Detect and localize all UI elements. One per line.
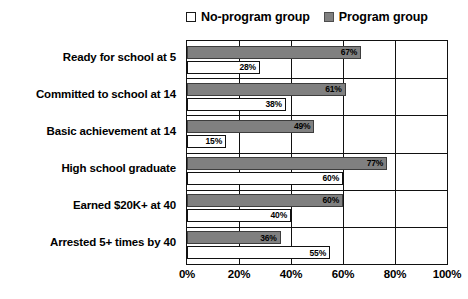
- bar-program-group: 61%: [187, 83, 346, 96]
- y-axis-label-3: Basic achievement at 14: [46, 125, 176, 137]
- x-tick-100: 100%: [433, 268, 462, 280]
- bar-no-program-group: 38%: [187, 98, 286, 111]
- bar-program-group: 36%: [187, 231, 281, 244]
- bar-value-label: 60%: [323, 196, 339, 205]
- bar-value-label: 40%: [271, 211, 287, 220]
- chart-legend: No-program group Program group: [186, 8, 428, 26]
- bar-value-label: 61%: [325, 85, 341, 94]
- bar-no-program-group: 15%: [187, 135, 226, 148]
- bar-value-label: 55%: [310, 249, 326, 258]
- y-axis-label-1: Ready for school at 5: [63, 51, 176, 63]
- y-axis-label-6: Arrested 5+ times by 40: [50, 236, 176, 248]
- bar-value-label: 38%: [265, 100, 281, 109]
- x-tick-0: 0%: [179, 268, 195, 280]
- legend-swatch-no-program-group: [186, 12, 196, 22]
- y-axis-label-5: Earned $20K+ at 40: [73, 199, 176, 211]
- bar-no-program-group: 55%: [187, 246, 330, 259]
- bar-group-6: 36%55%: [187, 227, 447, 264]
- bar-program-group: 67%: [187, 46, 361, 59]
- bar-no-program-group: 60%: [187, 172, 343, 185]
- bar-chart: No-program group Program group Ready for…: [0, 0, 468, 299]
- bar-no-program-group: 40%: [187, 209, 291, 222]
- bar-value-label: 60%: [323, 174, 339, 183]
- bar-group-4: 77%60%: [187, 153, 447, 190]
- y-axis-category-labels: Ready for school at 5Committed to school…: [0, 40, 182, 265]
- bar-value-label: 36%: [260, 234, 276, 243]
- legend-label-no-program-group: No-program group: [201, 11, 310, 24]
- bar-no-program-group: 28%: [187, 61, 260, 74]
- legend-item-no-program-group: No-program group: [186, 11, 310, 24]
- bar-value-label: 15%: [206, 137, 222, 146]
- bar-program-group: 60%: [187, 194, 343, 207]
- legend-swatch-program-group: [324, 12, 334, 22]
- legend-item-program-group: Program group: [324, 11, 428, 24]
- y-axis-label-2: Committed to school at 14: [36, 88, 176, 100]
- bar-value-label: 67%: [341, 48, 357, 57]
- bar-group-2: 61%38%: [187, 78, 447, 115]
- bar-value-label: 28%: [239, 63, 255, 72]
- x-tick-40: 40%: [280, 268, 302, 280]
- x-axis-tick-labels: 0%20%40%60%80%100%: [0, 268, 468, 288]
- x-tick-60: 60%: [332, 268, 354, 280]
- bar-group-3: 49%15%: [187, 115, 447, 152]
- plot-area: 67%28%61%38%49%15%77%60%60%40%36%55%: [186, 40, 448, 265]
- bar-value-label: 77%: [367, 159, 383, 168]
- x-tick-20: 20%: [228, 268, 250, 280]
- legend-label-program-group: Program group: [339, 11, 428, 24]
- bar-group-5: 60%40%: [187, 190, 447, 227]
- bar-program-group: 77%: [187, 157, 387, 170]
- y-axis-label-4: High school graduate: [61, 162, 176, 174]
- bar-rows: 67%28%61%38%49%15%77%60%60%40%36%55%: [187, 41, 447, 264]
- bar-program-group: 49%: [187, 120, 314, 133]
- x-tick-80: 80%: [384, 268, 406, 280]
- bar-value-label: 49%: [294, 122, 310, 131]
- bar-group-1: 67%28%: [187, 41, 447, 78]
